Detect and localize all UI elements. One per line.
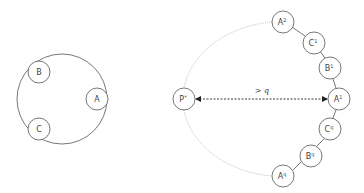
diagram-canvas: B A C > q A2 bbox=[0, 0, 364, 193]
svg-text:A: A bbox=[94, 95, 100, 104]
svg-text:C: C bbox=[36, 125, 42, 134]
dotted-arc-top bbox=[184, 22, 272, 88]
node-C: C bbox=[28, 118, 50, 140]
node-A2: A2 bbox=[272, 11, 294, 33]
node-A: A bbox=[86, 88, 108, 110]
node-B: B bbox=[28, 61, 50, 83]
node-Bq: Bq bbox=[300, 145, 322, 167]
right-cycle: > q A2 C1 B1 A1 Cq Bq Aq bbox=[173, 11, 350, 187]
node-B1: B1 bbox=[319, 57, 341, 79]
node-A1: A1 bbox=[328, 88, 350, 110]
left-cycle: B A C bbox=[17, 54, 108, 144]
node-Pstar: P* bbox=[173, 88, 195, 110]
node-Cq: Cq bbox=[319, 118, 341, 140]
distance-label: > q bbox=[255, 86, 269, 95]
node-Aq: Aq bbox=[272, 165, 294, 187]
node-C1: C1 bbox=[303, 32, 325, 54]
svg-text:B: B bbox=[36, 68, 42, 77]
dotted-arc-bottom bbox=[184, 110, 272, 176]
